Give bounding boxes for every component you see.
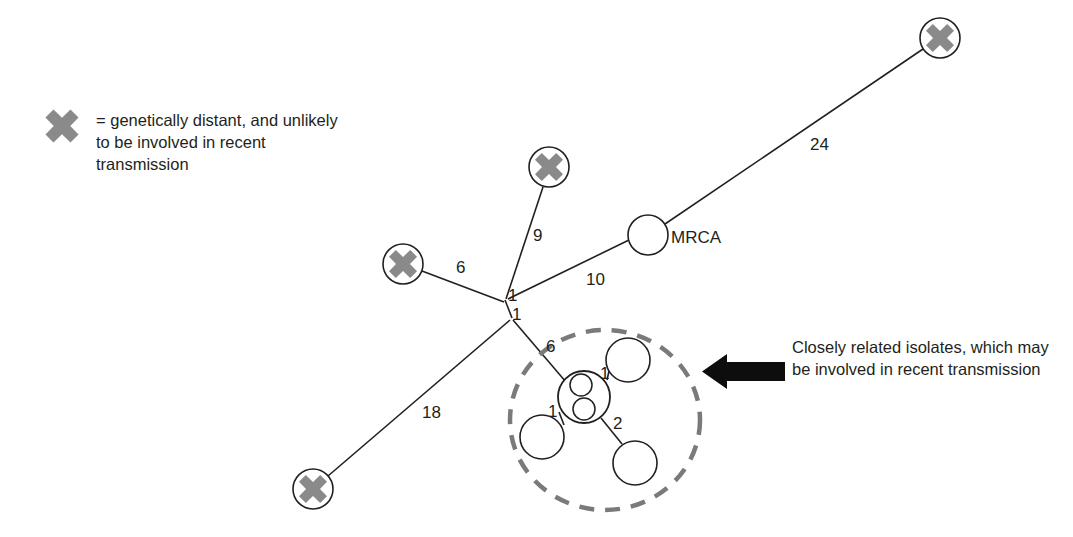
distant-node-top-middle[interactable]	[529, 147, 569, 187]
edge-label-10: 10	[586, 270, 605, 289]
distant-node-top-right[interactable]	[920, 18, 960, 58]
edge-junction-to-mrca	[508, 240, 629, 299]
edge-label-6-cluster: 6	[546, 337, 555, 356]
edge-label-1-junction-lower: 1	[512, 305, 521, 324]
edge-label-1-lower-left: 1	[548, 402, 557, 421]
legend-description: = genetically distant, and unlikely to b…	[96, 110, 356, 175]
edge-label-24: 24	[810, 135, 829, 154]
distant-node-bottom-left[interactable]	[293, 469, 333, 509]
distant-node-left[interactable]	[383, 244, 423, 284]
legend-gray-x-icon	[45, 109, 78, 142]
left-arrow-icon	[702, 354, 785, 389]
transmission-tree-svg: 24 9 6 10 1 1 18 6 1 1 2 MRCA	[0, 0, 1073, 537]
edge-label-1-junction-upper: 1	[508, 286, 517, 305]
cluster-hub-inner-circle-bottom	[573, 398, 595, 420]
edge-junction-to-cluster-hub	[513, 320, 566, 382]
edge-label-18: 18	[422, 403, 441, 422]
edge-label-6-left: 6	[456, 258, 465, 277]
cluster-node-lower-left[interactable]	[520, 415, 564, 459]
cluster-node-upper-right[interactable]	[606, 338, 650, 382]
edge-mrca-to-top-right	[665, 49, 923, 224]
mrca-label: MRCA	[671, 228, 722, 247]
cluster-hub-inner-circle-top	[570, 374, 592, 396]
mrca-node[interactable]	[628, 215, 668, 255]
edge-junction-to-bottom-left-distant	[328, 320, 510, 476]
edge-label-9: 9	[533, 226, 542, 245]
callout-description: Closely related isolates, which may be i…	[792, 337, 1062, 381]
cluster-node-lower-right[interactable]	[613, 441, 657, 485]
edge-label-1-upper-right: 1	[600, 364, 609, 383]
edge-label-2-lower-right: 2	[613, 414, 622, 433]
diagram-canvas: 24 9 6 10 1 1 18 6 1 1 2 MRCA = genetica…	[0, 0, 1073, 537]
